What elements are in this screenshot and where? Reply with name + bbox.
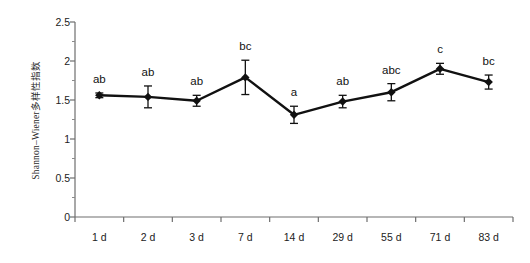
x-tick-label: 83 d xyxy=(478,231,498,243)
data-marker xyxy=(436,65,444,73)
plot-area xyxy=(0,0,530,263)
significance-label: ab xyxy=(336,75,349,87)
x-tick-label: 1 d xyxy=(92,231,107,243)
significance-label: ab xyxy=(190,75,203,87)
x-tick-label: 29 d xyxy=(332,231,352,243)
y-tick-label: 0 xyxy=(42,211,70,223)
significance-label: c xyxy=(437,43,443,55)
y-axis-ticks xyxy=(70,22,75,217)
x-tick-label: 14 d xyxy=(284,231,304,243)
significance-label: abc xyxy=(382,64,401,76)
y-tick-label: 2 xyxy=(42,55,70,67)
significance-label: ab xyxy=(142,66,155,78)
data-marker xyxy=(387,88,395,96)
data-marker xyxy=(484,78,492,86)
y-tick-label: 1 xyxy=(42,133,70,145)
x-tick-label: 55 d xyxy=(381,231,401,243)
y-tick-label: 0.5 xyxy=(42,172,70,184)
data-marker xyxy=(192,97,200,105)
x-tick-label: 7 d xyxy=(238,231,253,243)
data-marker xyxy=(338,97,346,105)
significance-label: ab xyxy=(93,73,106,85)
x-tick-label: 3 d xyxy=(189,231,204,243)
y-tick-label: 1.5 xyxy=(42,94,70,106)
significance-label: a xyxy=(291,86,297,98)
data-marker xyxy=(144,93,152,101)
significance-label: bc xyxy=(239,40,251,52)
chart-figure: Shannon–Wiener多样性指数 00.511.522.5 1 d2 d3… xyxy=(0,0,530,263)
x-axis-ticks xyxy=(75,217,513,222)
x-tick-label: 71 d xyxy=(430,231,450,243)
y-tick-label: 2.5 xyxy=(42,16,70,28)
x-tick-label: 2 d xyxy=(141,231,156,243)
significance-label: bc xyxy=(483,55,495,67)
